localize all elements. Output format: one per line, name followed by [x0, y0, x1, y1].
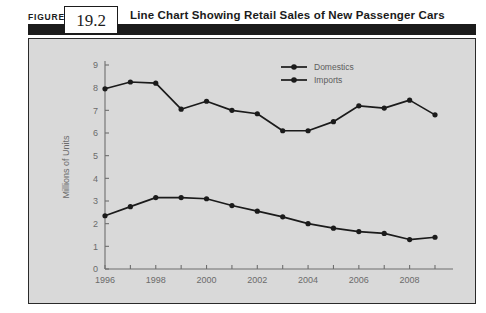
data-point	[356, 229, 361, 234]
y-axis-tick-label: 0	[93, 264, 98, 274]
data-point	[407, 98, 412, 103]
figure-title: Line Chart Showing Retail Sales of New P…	[130, 9, 445, 21]
data-point	[229, 108, 234, 113]
x-axis-tick-label: 2002	[247, 275, 267, 285]
data-point	[382, 231, 387, 236]
y-axis-tick-label: 7	[93, 106, 98, 116]
data-point	[280, 128, 285, 133]
data-point	[204, 99, 209, 104]
data-point	[280, 214, 285, 219]
legend-swatch-marker	[291, 77, 297, 83]
figure-number: 19.2	[76, 12, 106, 29]
x-axis-tick-label: 2000	[197, 275, 217, 285]
legend-swatch-marker	[291, 64, 297, 70]
y-axis-tick-label: 6	[93, 128, 98, 138]
data-point	[128, 204, 133, 209]
legend-label-imports: Imports	[314, 75, 342, 85]
x-axis-tick-label: 2006	[349, 275, 369, 285]
chart-area: 0123456789Millions of Units1996199820002…	[29, 39, 477, 305]
data-point	[255, 111, 260, 116]
y-axis-tick-label: 1	[93, 242, 98, 252]
data-point	[356, 103, 361, 108]
line-chart: 0123456789Millions of Units1996199820002…	[29, 39, 477, 305]
data-point	[305, 221, 310, 226]
data-point	[102, 86, 107, 91]
data-point	[102, 213, 107, 218]
y-axis-title: Millions of Units	[61, 135, 71, 199]
data-point	[255, 209, 260, 214]
data-point	[407, 237, 412, 242]
data-point	[331, 119, 336, 124]
data-point	[432, 112, 437, 117]
data-point	[432, 235, 437, 240]
y-axis-tick-label: 8	[93, 83, 98, 93]
y-axis-tick-label: 5	[93, 151, 98, 161]
data-point	[229, 203, 234, 208]
data-point	[153, 81, 158, 86]
y-axis-tick-label: 4	[93, 174, 98, 184]
data-point	[382, 105, 387, 110]
data-point	[128, 79, 133, 84]
data-point	[331, 226, 336, 231]
x-axis-tick-label: 1998	[146, 275, 166, 285]
x-axis-tick-label: 1996	[95, 275, 115, 285]
x-axis-tick-label: 2004	[298, 275, 318, 285]
y-axis-tick-label: 3	[93, 196, 98, 206]
figure-container: FIGURE 19.2 Line Chart Showing Retail Sa…	[0, 0, 486, 313]
legend-label-domestics: Domestics	[314, 62, 354, 72]
x-axis-tick-label: 2008	[400, 275, 420, 285]
y-axis-tick-label: 9	[93, 60, 98, 70]
data-point	[153, 195, 158, 200]
data-point	[204, 196, 209, 201]
figure-label: FIGURE	[28, 12, 65, 22]
figure-header: FIGURE 19.2 Line Chart Showing Retail Sa…	[0, 0, 486, 40]
data-point	[179, 107, 184, 112]
data-point	[305, 128, 310, 133]
chart-panel: 0123456789Millions of Units1996199820002…	[28, 38, 476, 304]
figure-number-box: 19.2	[64, 6, 118, 34]
data-point	[179, 195, 184, 200]
y-axis-tick-label: 2	[93, 219, 98, 229]
